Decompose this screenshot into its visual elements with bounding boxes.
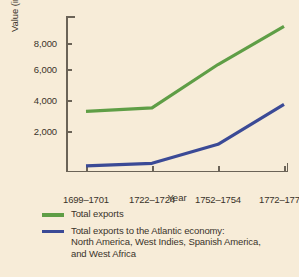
y-tick-label-8000: 8,000: [34, 38, 57, 49]
chart-plot-area: Value (in thousands of pounds sterling) …: [0, 0, 299, 200]
line-total-exports: [86, 26, 284, 111]
y-axis-label: Value (in thousands of pounds sterling): [9, 0, 23, 32]
legend-label-line1: Total exports: [71, 208, 124, 219]
y-axis-label-container: Value (in thousands of pounds sterling): [12, 18, 26, 178]
plot-frame: 8,000 6,000 4,000 2,000 1699–1701 1722–1…: [66, 16, 288, 172]
line-atlantic-economy: [86, 104, 284, 166]
legend-item-atlantic-economy: Total exports to the Atlantic economy: N…: [42, 225, 294, 260]
legend-label-line1: Total exports to the Atlantic economy:: [71, 225, 225, 236]
series-lines: [66, 16, 288, 172]
y-tick-label-2000: 2,000: [34, 126, 57, 137]
legend-swatch-blue: [42, 230, 64, 234]
legend-item-total-exports: Total exports: [42, 208, 294, 220]
legend-swatch-green: [42, 213, 64, 217]
y-tick-label-4000: 4,000: [34, 95, 57, 106]
legend-label-line3: and West Africa: [71, 248, 261, 260]
legend-label-line2: North America, West Indies, Spanish Amer…: [71, 236, 261, 248]
y-tick-label-6000: 6,000: [34, 64, 57, 75]
legend-label-atlantic-economy: Total exports to the Atlantic economy: N…: [71, 225, 261, 260]
legend-label-total-exports: Total exports: [71, 208, 124, 220]
x-axis-label: Year: [66, 192, 288, 203]
chart-figure: Value (in thousands of pounds sterling) …: [0, 0, 299, 277]
chart-legend: Total exports Total exports to the Atlan…: [42, 208, 294, 264]
